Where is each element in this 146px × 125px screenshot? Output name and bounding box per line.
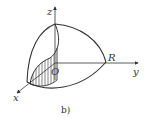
radius-label: R <box>107 52 116 63</box>
x-axis-label: x <box>13 92 19 103</box>
figure-caption: b) <box>61 105 70 115</box>
cylinder-base <box>30 80 57 86</box>
diagram-canvas: z y x O R b) <box>0 0 146 125</box>
sphere-arc-yz <box>55 24 106 62</box>
z-axis-label: z <box>46 6 53 17</box>
origin-label: O <box>51 66 59 77</box>
y-axis-label: y <box>132 66 139 77</box>
hatching <box>33 30 54 90</box>
